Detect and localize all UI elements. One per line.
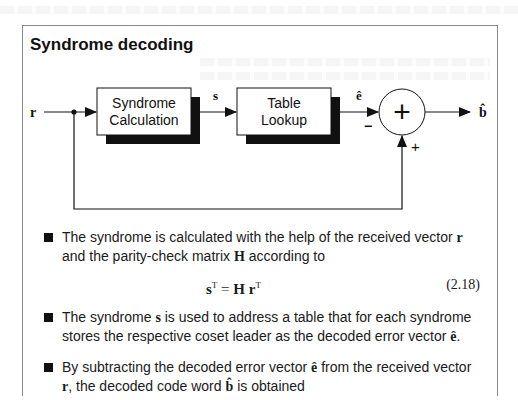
plus-sign: + bbox=[411, 138, 420, 155]
equation-number: (2.18) bbox=[446, 276, 480, 294]
block1-label-line1: Syndrome bbox=[112, 95, 176, 111]
bullet-square-icon bbox=[44, 363, 53, 372]
block1-label-line2: Calculation bbox=[109, 112, 178, 128]
adder-plus-symbol: + bbox=[393, 95, 411, 128]
signal-s-label: s bbox=[213, 88, 218, 103]
minus-sign: − bbox=[364, 118, 372, 134]
bullet-square-icon bbox=[44, 233, 53, 242]
input-r-label: r bbox=[30, 105, 36, 120]
equation-expression: sT = H rT bbox=[206, 276, 261, 298]
equation-2-18: sT = H rT (2.18) bbox=[44, 272, 484, 302]
bullet-item: The syndrome s is used to address a tabl… bbox=[44, 308, 484, 346]
output-b-hat-label: b̂ bbox=[479, 103, 487, 120]
bullet-square-icon bbox=[44, 313, 53, 322]
signal-e-hat-label: ê bbox=[356, 88, 362, 103]
block2-label-line1: Table bbox=[267, 95, 301, 111]
bullet-list: The syndrome is calculated with the help… bbox=[44, 228, 484, 400]
bullet-item: The syndrome is calculated with the help… bbox=[44, 228, 484, 266]
bullet-item: By subtracting the decoded error vector … bbox=[44, 358, 484, 396]
block2-label-line2: Lookup bbox=[261, 112, 307, 128]
syndrome-decoder-diagram: Syndrome Calculation s Table Lookup ê − … bbox=[0, 0, 518, 230]
